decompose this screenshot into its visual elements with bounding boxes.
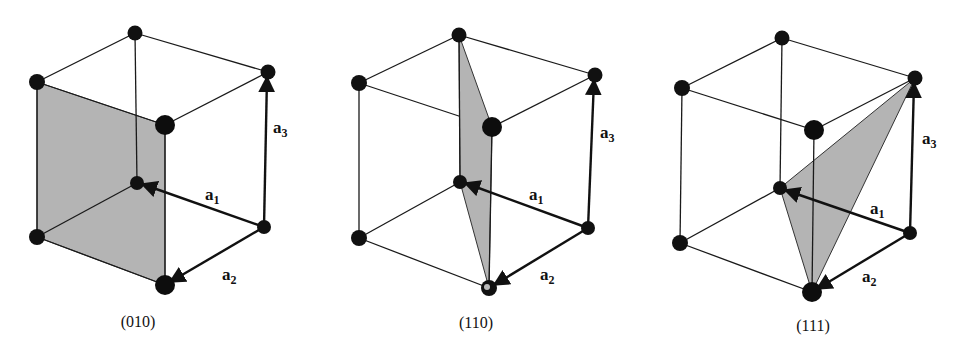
vector-a3 bbox=[588, 80, 594, 228]
caption-010: (010) bbox=[121, 313, 156, 331]
plane-110 bbox=[459, 35, 492, 288]
label-a1: a1 bbox=[205, 185, 220, 207]
label-a2: a2 bbox=[540, 265, 555, 287]
label-a1: a1 bbox=[870, 199, 885, 221]
label-a1: a1 bbox=[529, 185, 544, 207]
cube-panel-111: a1 a2 a3 (111) bbox=[672, 31, 937, 336]
cube-panel-110: a1 a2 a3 (110) bbox=[351, 28, 615, 333]
label-a2: a2 bbox=[222, 265, 237, 287]
vector-a3 bbox=[910, 83, 914, 233]
vector-a3 bbox=[264, 77, 267, 227]
label-a2: a2 bbox=[862, 267, 877, 289]
plane-010 bbox=[37, 82, 165, 285]
label-a3: a3 bbox=[273, 118, 288, 140]
plane-111 bbox=[780, 78, 915, 292]
caption-111: (111) bbox=[796, 317, 829, 335]
label-a3: a3 bbox=[600, 123, 615, 145]
crystal-planes-figure: a1 a2 a3 (010) bbox=[0, 0, 962, 354]
cube-edges bbox=[680, 38, 915, 292]
cube-panel-010: a1 a2 a3 (010) bbox=[29, 26, 288, 332]
label-a3: a3 bbox=[922, 129, 937, 151]
vector-a2 bbox=[170, 227, 264, 282]
caption-110: (110) bbox=[459, 314, 493, 332]
atoms bbox=[672, 31, 923, 303]
